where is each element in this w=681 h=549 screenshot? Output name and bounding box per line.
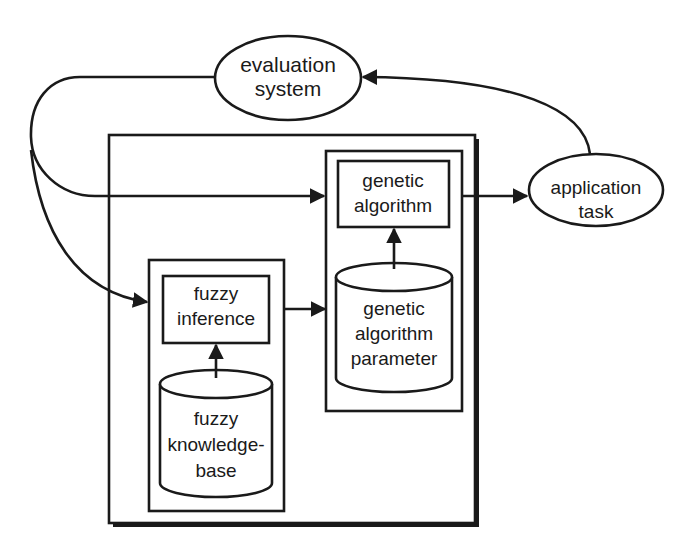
ga-parameter-database: genetic algorithm parameter	[336, 263, 452, 392]
diagram-canvas: evaluation system application task genet…	[0, 0, 681, 549]
fuzzy-kb-label-line2: knowledge-	[167, 434, 264, 455]
ga-param-label-line3: parameter	[351, 348, 438, 369]
fuzzy-kb-label-line1: fuzzy	[194, 408, 239, 429]
ga-param-label-line2: algorithm	[355, 323, 433, 344]
fuzzy-inference-label-line2: inference	[177, 308, 255, 329]
fuzzy-knowledge-base-database: fuzzy knowledge- base	[160, 370, 272, 497]
genetic-algorithm-module: genetic algorithm genetic algorithm para…	[326, 151, 462, 411]
evaluation-system-node: evaluation system	[215, 36, 361, 120]
fuzzy-module: fuzzy inference fuzzy knowledge- base	[149, 260, 284, 511]
ga-label-line1: genetic	[362, 170, 423, 191]
ga-param-label-line1: genetic	[363, 298, 424, 319]
fuzzy-inference-label-line1: fuzzy	[194, 283, 239, 304]
application-label-line1: application	[551, 177, 642, 198]
fuzzy-kb-label-line3: base	[195, 460, 236, 481]
evaluation-label-line1: evaluation	[240, 53, 336, 76]
application-task-node: application task	[529, 154, 663, 226]
evaluation-label-line2: system	[255, 77, 322, 100]
application-label-line2: task	[579, 201, 614, 222]
ga-label-line2: algorithm	[354, 195, 432, 216]
